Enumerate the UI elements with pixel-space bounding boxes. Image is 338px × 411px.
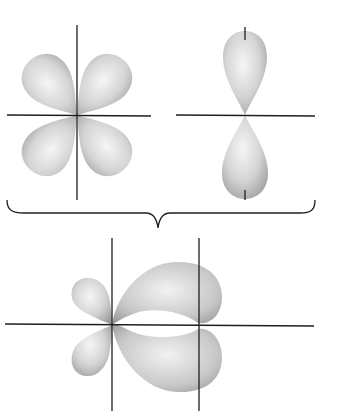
overlap-large-lobe-upper bbox=[112, 262, 222, 325]
p-horizontal-axis bbox=[176, 115, 315, 116]
overlap-small-lobe-lower bbox=[72, 325, 112, 376]
overlap-small-lobe-upper bbox=[72, 278, 112, 325]
overlap-large-lobe-lower bbox=[112, 324, 222, 392]
combination-brace bbox=[7, 200, 315, 228]
p-lobe-lower bbox=[222, 115, 268, 199]
p-orbital-panel bbox=[176, 27, 315, 200]
d-horizontal-axis bbox=[7, 115, 151, 116]
p-lobe-upper bbox=[223, 31, 267, 115]
overlap-horizontal-axis bbox=[5, 324, 314, 326]
orbital-diagram bbox=[0, 0, 338, 411]
overlap-panel bbox=[5, 238, 314, 411]
d-orbital-panel bbox=[7, 25, 151, 200]
